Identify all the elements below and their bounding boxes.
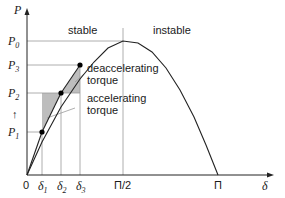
point-d2 <box>58 90 63 95</box>
accel-label-1: accelerating <box>87 92 146 104</box>
pi-label: Π <box>214 179 222 191</box>
power-angle-diagram: P P0 P3 P2 P1 ↑ 0 δ1 δ2 δ3 Π/2 Π δ stabl… <box>0 0 285 198</box>
accel-label-2: torque <box>87 104 118 116</box>
p3-label: P3 <box>7 58 19 74</box>
pi-half-label: Π/2 <box>114 179 131 191</box>
origin-label: 0 <box>23 179 29 191</box>
d1-label: δ1 <box>38 179 48 195</box>
p2-label: P2 <box>7 86 19 102</box>
d2-label: δ2 <box>57 179 67 195</box>
decel-label-1: deaccelerating <box>87 62 159 74</box>
point-d3 <box>77 62 82 67</box>
point-d1 <box>39 129 44 134</box>
stable-label: stable <box>68 24 97 36</box>
x-axis-label: δ <box>262 179 268 193</box>
decel-label-2: torque <box>87 74 118 86</box>
up-arrow-icon: ↑ <box>12 108 18 120</box>
p0-label: P0 <box>7 34 19 50</box>
p1-label: P1 <box>7 125 19 141</box>
d3-label: δ3 <box>76 179 86 195</box>
x-axis-arrow-icon <box>267 173 274 178</box>
y-axis-label: P <box>13 3 22 17</box>
instable-label: instable <box>153 24 191 36</box>
y-axis-arrow-icon <box>25 8 30 15</box>
